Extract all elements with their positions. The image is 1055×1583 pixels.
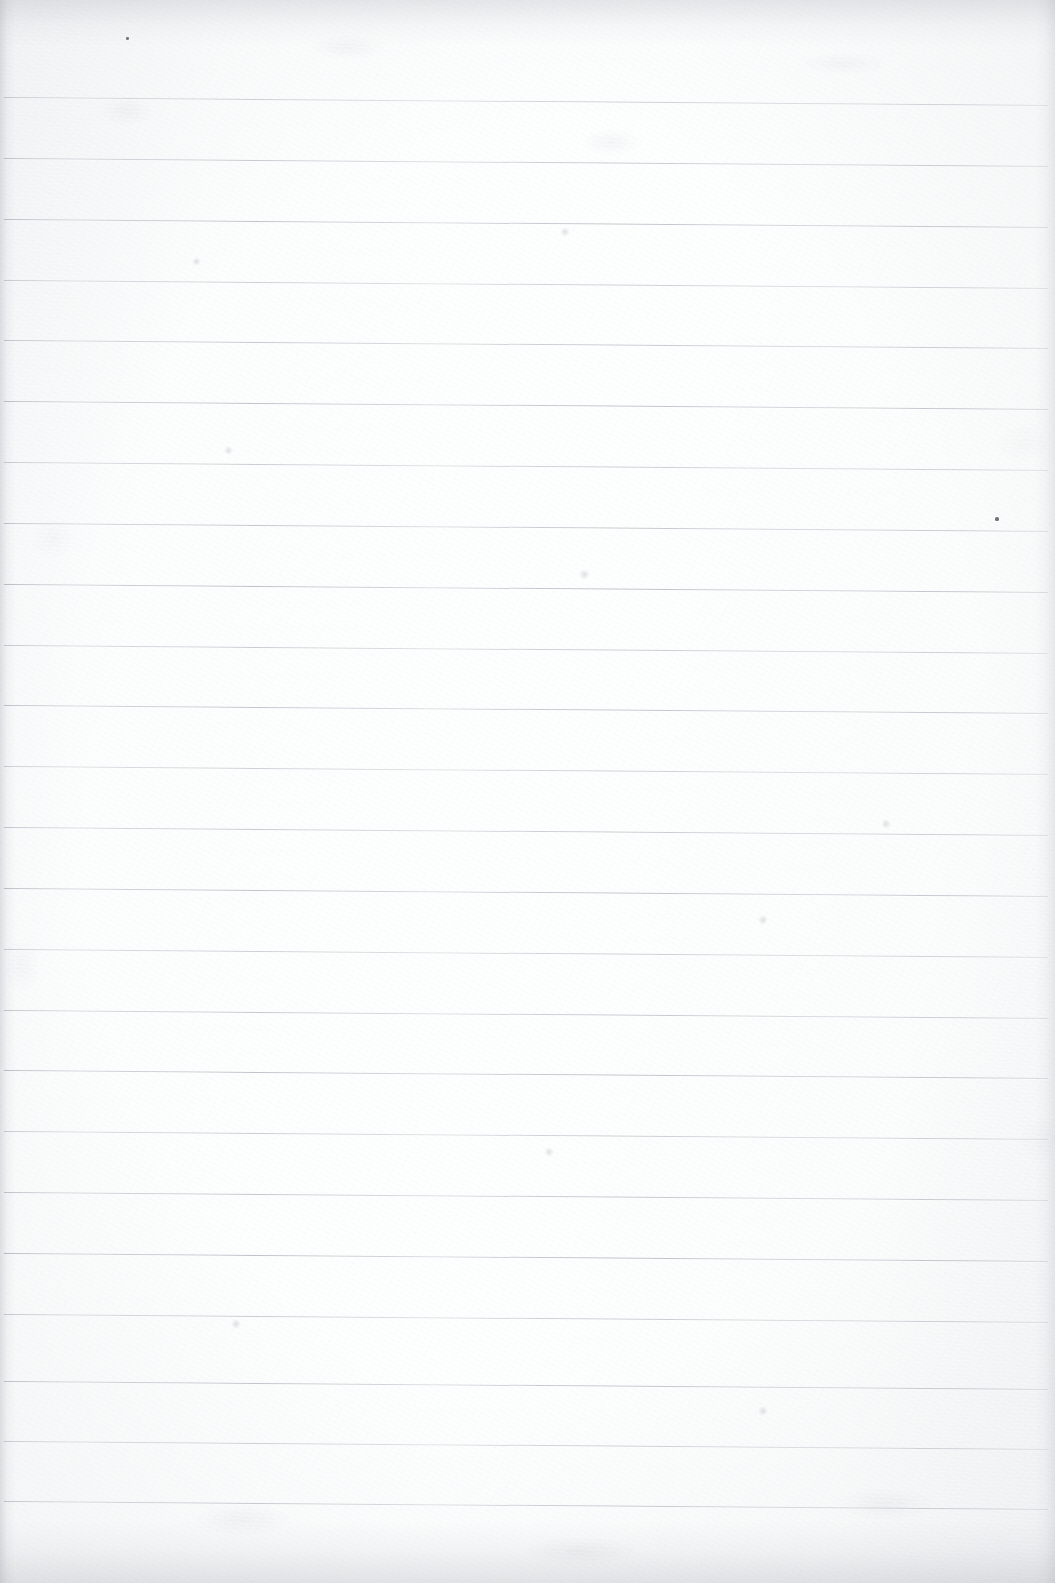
page-written-content	[0, 0, 1055, 1583]
scanned-notebook-page	[0, 0, 1055, 1583]
